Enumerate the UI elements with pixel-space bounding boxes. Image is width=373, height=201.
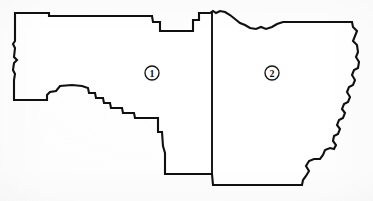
district-1-label-text: 1 [150, 68, 155, 79]
map-outline [13, 11, 359, 185]
district-2-label-text: 2 [270, 68, 275, 79]
district-map-svg: 1 2 [0, 0, 373, 201]
district-map-figure: 1 2 [0, 0, 373, 201]
